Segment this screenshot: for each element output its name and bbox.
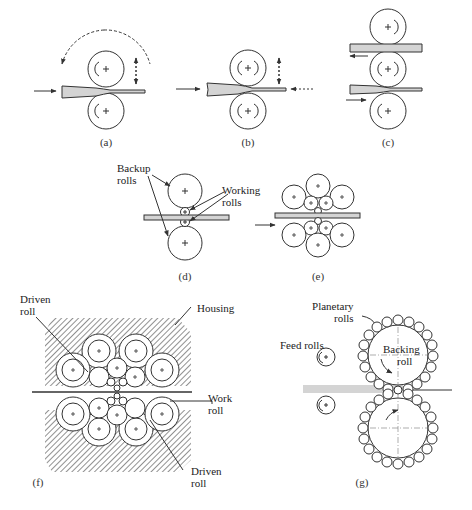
label-backup-rolls: Backup rolls — [117, 162, 151, 186]
label-backing-roll: Backing roll — [383, 343, 420, 367]
label-line: roll — [20, 305, 51, 317]
label-line: Work — [208, 392, 232, 404]
panel-d — [144, 174, 229, 260]
label-work-roll: Work roll — [208, 392, 232, 416]
panel-e — [255, 174, 360, 257]
panel-f — [32, 307, 212, 472]
caption-f: (f) — [33, 476, 44, 488]
label-line: rolls — [222, 196, 260, 208]
caption-e: (e) — [312, 270, 324, 282]
label-feed-rolls: Feed rolls — [280, 339, 324, 351]
caption-g: (g) — [356, 476, 369, 488]
label-line: roll — [191, 477, 222, 489]
panel-a — [34, 30, 150, 129]
label-line: roll — [208, 404, 232, 416]
panel-b — [176, 50, 313, 129]
caption-d: (d) — [179, 270, 192, 282]
label-line: rolls — [117, 174, 151, 186]
label-driven-roll-bottom: Driven roll — [191, 465, 222, 489]
caption-c: (c) — [382, 136, 394, 148]
label-line: Backup — [117, 162, 151, 174]
label-planetary-rolls: Planetary rolls — [312, 300, 354, 324]
caption-a: (a) — [100, 136, 112, 148]
label-line: rolls — [312, 312, 354, 324]
label-line: Working — [222, 184, 260, 196]
label-line: Driven — [20, 293, 51, 305]
panel-c — [346, 9, 422, 129]
caption-b: (b) — [242, 136, 255, 148]
label-housing: Housing — [197, 302, 234, 314]
label-line: Backing — [383, 343, 420, 355]
label-line: roll — [383, 355, 420, 367]
label-working-rolls: Working rolls — [222, 184, 260, 208]
label-driven-roll-top: Driven roll — [20, 293, 51, 317]
diagram-canvas — [0, 0, 472, 510]
label-line: Driven — [191, 465, 222, 477]
label-line: Planetary — [312, 300, 354, 312]
